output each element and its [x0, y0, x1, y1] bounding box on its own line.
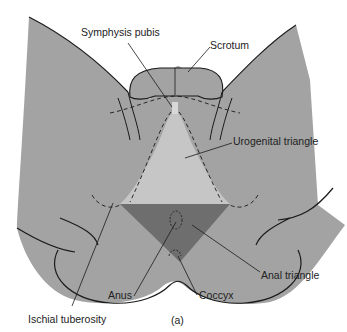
label-anus: Anus: [108, 290, 132, 301]
label-anal-triangle: Anal triangle: [261, 270, 319, 281]
label-urogenital-triangle: Urogenital triangle: [233, 136, 318, 147]
panel-label: (a): [171, 315, 184, 326]
label-coccyx: Coccyx: [199, 290, 233, 301]
perineum-diagram: [0, 0, 347, 332]
label-symphysis-pubis: Symphysis pubis: [81, 27, 160, 38]
label-ischial-tuberosity: Ischial tuberosity: [28, 314, 106, 325]
scrotum-shape: [130, 68, 223, 99]
label-scrotum: Scrotum: [210, 40, 249, 51]
